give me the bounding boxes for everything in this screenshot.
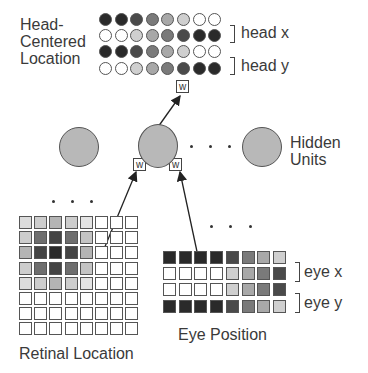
- retinal-unit: [65, 246, 78, 259]
- retinal-unit: [110, 216, 123, 229]
- retinal-unit: [34, 231, 47, 244]
- retinal-unit: [49, 292, 62, 305]
- eye-unit: [179, 267, 192, 280]
- retinal-unit: [110, 322, 123, 335]
- retinal-unit: [125, 277, 138, 290]
- retinal-unit: [80, 262, 93, 275]
- eye-unit: [210, 267, 223, 280]
- retinal-location-label: Retinal Location: [19, 345, 134, 362]
- retinal-unit: [34, 322, 47, 335]
- retinal-unit: [125, 307, 138, 320]
- retinal-unit: [95, 246, 108, 259]
- retinal-unit: [65, 277, 78, 290]
- retinal-unit: [125, 246, 138, 259]
- hidden-units-label: Hidden Units: [290, 134, 341, 168]
- retinal-unit: [49, 307, 62, 320]
- ellipsis-dot: [228, 145, 231, 148]
- retinal-unit: [80, 307, 93, 320]
- retinal-unit: [49, 231, 62, 244]
- eye-unit: [194, 283, 207, 296]
- ellipsis-dot: [249, 225, 252, 228]
- retinal-unit: [95, 277, 108, 290]
- ellipsis-dot: [52, 200, 55, 203]
- retinal-unit: [110, 277, 123, 290]
- retinal-unit: [95, 292, 108, 305]
- eye-unit: [242, 267, 255, 280]
- ellipsis-dot: [209, 145, 212, 148]
- ellipsis-dot: [210, 225, 213, 228]
- retinal-unit: [95, 216, 108, 229]
- eye-unit: [242, 251, 255, 264]
- eye-unit: [194, 300, 207, 313]
- retinal-unit: [19, 246, 32, 259]
- retinal-unit: [49, 322, 62, 335]
- retinal-unit: [34, 216, 47, 229]
- retinal-unit: [110, 246, 123, 259]
- retinal-unit: [125, 231, 138, 244]
- retinal-unit: [34, 307, 47, 320]
- retinal-unit: [80, 322, 93, 335]
- eye-unit: [210, 300, 223, 313]
- eye-unit: [226, 300, 239, 313]
- eye-unit: [273, 300, 286, 313]
- retinal-unit: [110, 231, 123, 244]
- retinal-unit: [110, 292, 123, 305]
- retinal-unit: [80, 292, 93, 305]
- ellipsis-dot: [71, 200, 74, 203]
- eye-unit: [210, 283, 223, 296]
- retinal-unit: [49, 216, 62, 229]
- eye-unit: [242, 283, 255, 296]
- retinal-unit: [80, 216, 93, 229]
- eye-unit: [194, 267, 207, 280]
- retinal-unit: [19, 322, 32, 335]
- eye-unit: [194, 251, 207, 264]
- retinal-unit: [80, 231, 93, 244]
- ellipsis-dot: [229, 225, 232, 228]
- retinal-unit: [34, 246, 47, 259]
- eye-unit: [179, 283, 192, 296]
- retinal-unit: [19, 292, 32, 305]
- eye-unit: [273, 267, 286, 280]
- hidden-unit-2: [138, 124, 178, 168]
- retinal-unit: [49, 277, 62, 290]
- eye-unit: [273, 251, 286, 264]
- eye-unit: [226, 267, 239, 280]
- retinal-unit: [65, 262, 78, 275]
- retinal-unit: [95, 322, 108, 335]
- retinal-unit: [95, 262, 108, 275]
- eye-unit: [210, 251, 223, 264]
- hidden-unit-n: [242, 127, 282, 167]
- retinal-unit: [125, 292, 138, 305]
- retinal-unit: [19, 262, 32, 275]
- retinal-unit: [110, 307, 123, 320]
- retinal-unit: [80, 277, 93, 290]
- retinal-unit: [34, 277, 47, 290]
- retinal-unit: [65, 322, 78, 335]
- eye-unit: [257, 267, 270, 280]
- retinal-unit: [19, 216, 32, 229]
- retinal-unit: [125, 216, 138, 229]
- eye-unit: [179, 251, 192, 264]
- retinal-unit: [49, 246, 62, 259]
- eye-unit: [163, 251, 176, 264]
- eye-unit: [226, 251, 239, 264]
- retinal-unit: [19, 307, 32, 320]
- hidden-unit-1: [59, 127, 99, 167]
- retinal-unit: [34, 292, 47, 305]
- eye-y-bracket: [295, 293, 300, 313]
- eye-unit: [163, 267, 176, 280]
- retinal-unit: [95, 307, 108, 320]
- retinal-unit: [49, 262, 62, 275]
- eye-unit: [163, 283, 176, 296]
- ellipsis-dot: [90, 200, 93, 203]
- eye-x-label: eye x: [304, 263, 342, 280]
- retinal-unit: [95, 231, 108, 244]
- eye-unit: [257, 251, 270, 264]
- eye-unit: [242, 300, 255, 313]
- retinal-unit: [110, 262, 123, 275]
- eye-y-label: eye y: [304, 294, 342, 311]
- weight-box-output: w: [176, 80, 189, 93]
- eye-unit: [163, 300, 176, 313]
- retinal-unit: [19, 277, 32, 290]
- ellipsis-dot: [190, 145, 193, 148]
